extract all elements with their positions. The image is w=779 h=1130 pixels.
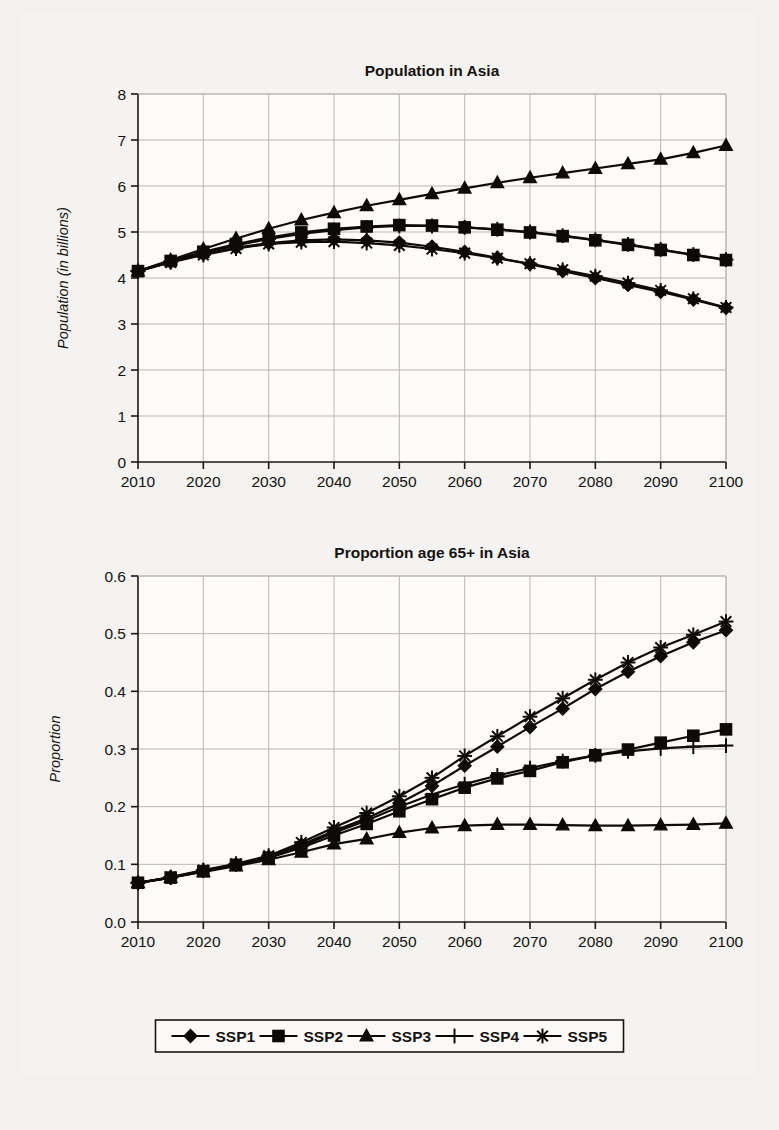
x-tick-label: 2060 [447, 473, 482, 490]
x-tick-label: 2050 [382, 933, 417, 950]
population-chart-svg: Population in Asia0123456782010202020302… [22, 54, 757, 524]
legend-label: SSP2 [304, 1028, 344, 1045]
data-point-marker-asterisk [555, 262, 570, 277]
data-point-marker-asterisk [588, 672, 603, 687]
chart-title: Proportion age 65+ in Asia [334, 544, 530, 561]
y-tick-label: 0.5 [104, 625, 126, 642]
data-point-marker-asterisk [359, 236, 374, 251]
data-point-marker-asterisk [490, 251, 505, 266]
y-axis-label: Population (in billions) [55, 207, 71, 349]
legend-svg: SSP1SSP2SSP3SSP4SSP5 [22, 1014, 757, 1060]
data-point-marker-square [720, 724, 731, 735]
x-tick-label: 2040 [317, 473, 352, 490]
legend-label: SSP1 [216, 1028, 256, 1045]
x-tick-label: 2070 [513, 933, 548, 950]
data-point-marker-asterisk [196, 863, 211, 878]
x-tick-label: 2030 [251, 933, 286, 950]
data-point-marker-asterisk [686, 627, 701, 642]
data-point-marker-asterisk [588, 269, 603, 284]
legend-label: SSP3 [392, 1028, 432, 1045]
x-tick-label: 2070 [513, 473, 548, 490]
data-point-marker-asterisk [621, 276, 636, 291]
x-tick-label: 2030 [251, 473, 286, 490]
x-tick-label: 2050 [382, 473, 417, 490]
x-tick-label: 2020 [186, 933, 221, 950]
data-point-marker-asterisk [294, 835, 309, 850]
chart-population-in-asia: Population in Asia0123456782010202020302… [22, 54, 757, 524]
legend-label: SSP5 [568, 1028, 608, 1045]
y-tick-label: 1 [117, 408, 126, 425]
data-point-marker-asterisk [261, 237, 276, 252]
legend-marker-square [273, 1030, 284, 1041]
data-point-marker-asterisk [196, 248, 211, 263]
y-tick-label: 3 [117, 316, 126, 333]
x-tick-label: 2010 [121, 473, 156, 490]
page-canvas: Population in Asia0123456782010202020302… [0, 0, 779, 1130]
data-point-marker-asterisk [229, 241, 244, 256]
x-tick-label: 2060 [447, 933, 482, 950]
data-point-marker-asterisk [229, 856, 244, 871]
data-point-marker-asterisk [163, 870, 178, 885]
y-tick-label: 0.0 [104, 914, 126, 931]
chart-title: Population in Asia [365, 62, 500, 79]
data-point-marker-asterisk [719, 300, 734, 315]
x-tick-label: 2010 [121, 933, 156, 950]
y-tick-label: 2 [117, 362, 126, 379]
data-point-marker-asterisk [131, 875, 146, 890]
legend-label: SSP4 [480, 1028, 520, 1045]
data-point-marker-asterisk [261, 848, 276, 863]
x-tick-label: 2100 [709, 933, 744, 950]
data-point-marker-asterisk [425, 242, 440, 257]
x-tick-label: 2040 [317, 933, 352, 950]
y-tick-label: 0.3 [104, 741, 126, 758]
y-tick-label: 7 [117, 132, 126, 149]
data-point-marker-asterisk [163, 255, 178, 270]
y-tick-label: 4 [117, 270, 126, 287]
data-point-marker-asterisk [686, 291, 701, 306]
data-point-marker-asterisk [294, 235, 309, 250]
data-point-marker-asterisk [359, 806, 374, 821]
y-tick-label: 0.4 [104, 683, 126, 700]
x-tick-label: 2090 [643, 933, 678, 950]
data-point-marker-asterisk [621, 655, 636, 670]
data-point-marker-asterisk [457, 246, 472, 261]
data-point-marker-asterisk [523, 256, 538, 271]
legend-marker-asterisk [535, 1029, 550, 1044]
x-tick-label: 2020 [186, 473, 221, 490]
x-axis-ticks: 2010202020302040205020602070208020902100 [121, 462, 744, 490]
y-axis-ticks: 012345678 [117, 86, 138, 471]
data-point-marker-asterisk [490, 729, 505, 744]
x-tick-label: 2100 [709, 473, 744, 490]
y-axis-label: Proportion [47, 716, 63, 783]
data-point-marker-asterisk [457, 749, 472, 764]
y-tick-label: 0 [117, 454, 126, 471]
data-point-marker-asterisk [131, 264, 146, 279]
y-axis-ticks: 0.00.10.20.30.40.50.6 [104, 568, 138, 931]
data-point-marker-asterisk [392, 789, 407, 804]
y-tick-label: 8 [117, 86, 126, 103]
figure-area: Population in Asia0123456782010202020302… [22, 14, 757, 1076]
data-point-marker-asterisk [523, 709, 538, 724]
y-tick-label: 6 [117, 178, 126, 195]
data-point-marker-asterisk [653, 640, 668, 655]
data-point-marker-asterisk [327, 820, 342, 835]
x-tick-label: 2080 [578, 473, 613, 490]
x-tick-label: 2090 [643, 473, 678, 490]
data-point-marker-asterisk [719, 614, 734, 629]
y-tick-label: 5 [117, 224, 126, 241]
data-point-marker-asterisk [653, 283, 668, 298]
data-point-marker-asterisk [555, 691, 570, 706]
y-tick-label: 0.6 [104, 568, 126, 585]
y-tick-label: 0.1 [104, 856, 126, 873]
legend-container: SSP1SSP2SSP3SSP4SSP5 [22, 1014, 757, 1060]
chart-proportion-age-65-plus-in-asia: Proportion age 65+ in Asia0.00.10.20.30.… [22, 542, 757, 980]
data-point-marker-asterisk [392, 238, 407, 253]
y-tick-label: 0.2 [104, 798, 126, 815]
data-point-marker-asterisk [327, 234, 342, 249]
data-point-marker-asterisk [425, 770, 440, 785]
x-tick-label: 2080 [578, 933, 613, 950]
proportion-chart-svg: Proportion age 65+ in Asia0.00.10.20.30.… [22, 542, 757, 980]
x-axis-ticks: 2010202020302040205020602070208020902100 [121, 922, 744, 950]
